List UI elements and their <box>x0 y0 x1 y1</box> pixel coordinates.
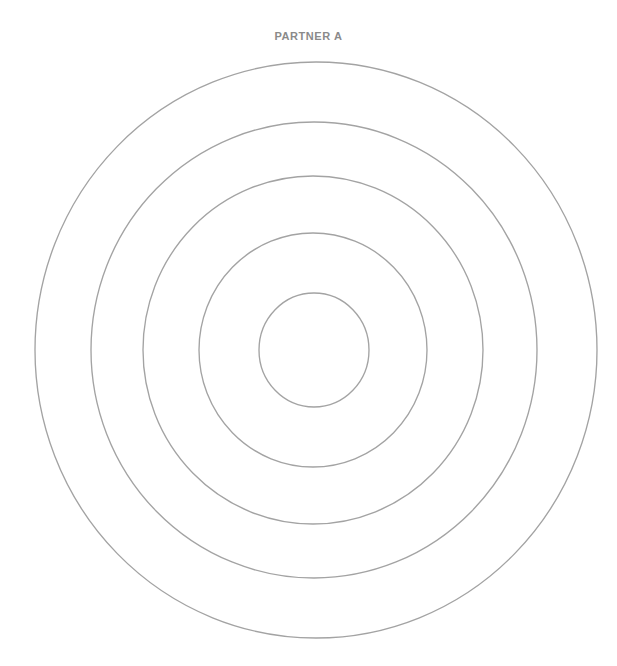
ring-5-innermost[interactable] <box>259 293 369 407</box>
ring-1-outermost[interactable] <box>35 62 597 638</box>
ring-3[interactable] <box>143 176 483 524</box>
ring-4[interactable] <box>199 233 427 467</box>
concentric-circles-diagram: PARTNER A <box>0 0 617 666</box>
ring-2[interactable] <box>91 122 537 578</box>
rings-canvas <box>0 0 617 666</box>
